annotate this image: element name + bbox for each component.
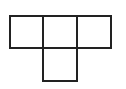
square-cell-r0-c1 xyxy=(42,15,78,49)
square-cell-r0-c0 xyxy=(9,15,44,49)
t-tetromino-diagram xyxy=(0,0,126,89)
square-cell-r1-c1 xyxy=(42,47,78,82)
square-cell-r0-c2 xyxy=(76,15,112,49)
